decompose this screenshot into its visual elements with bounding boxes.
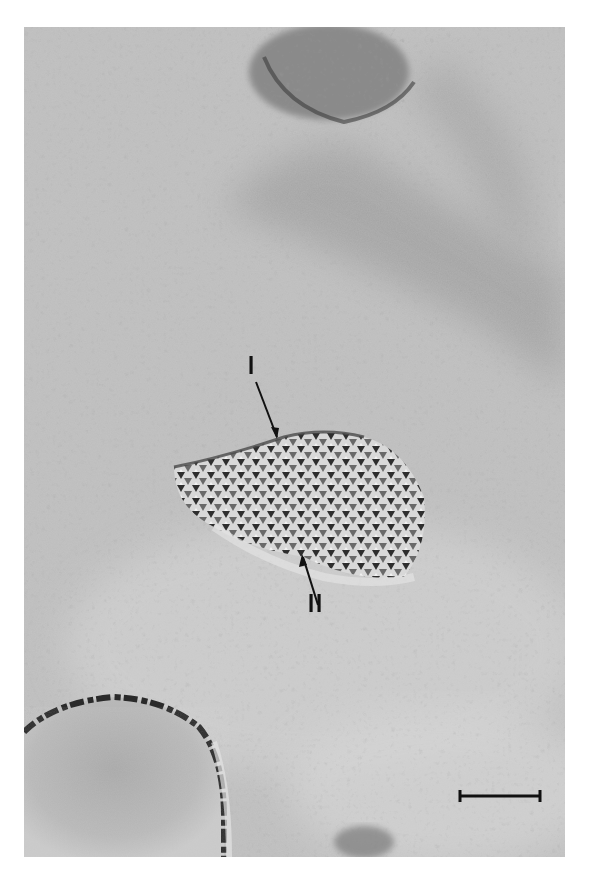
micrograph-figure: I II	[24, 27, 565, 857]
bottom-fragment	[334, 826, 394, 857]
vesicle	[24, 697, 229, 857]
label-II: II	[308, 591, 324, 616]
label-I: I	[248, 353, 256, 378]
micrograph-canvas	[24, 27, 565, 857]
